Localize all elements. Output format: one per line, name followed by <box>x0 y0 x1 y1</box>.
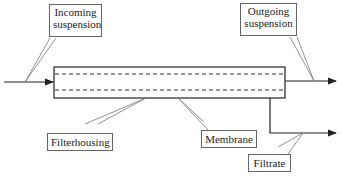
membrane-text: Membrane <box>205 133 253 145</box>
label-outgoing-suspension: Outgoing suspension <box>240 3 297 36</box>
outgoing-line1: Outgoing <box>244 5 293 17</box>
filterhousing-text: Filterhousing <box>51 136 110 148</box>
incoming-line1: Incoming <box>53 6 98 18</box>
crossflow-filtration-diagram: Incoming suspension Outgoing suspension … <box>0 0 342 182</box>
label-incoming-suspension: Incoming suspension <box>49 4 102 37</box>
filtrate-text: Filtrate <box>254 157 286 169</box>
filtrate-arrow <box>270 98 336 133</box>
outgoing-line2: suspension <box>244 17 293 29</box>
filter-housing-box <box>54 67 285 98</box>
label-filtrate: Filtrate <box>248 154 291 172</box>
label-membrane: Membrane <box>201 130 257 148</box>
label-filterhousing: Filterhousing <box>47 133 113 151</box>
incoming-line2: suspension <box>53 18 98 30</box>
